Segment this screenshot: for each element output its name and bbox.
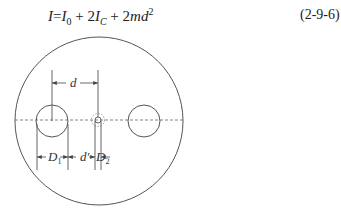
main-disk	[15, 37, 183, 205]
right-hole	[128, 105, 160, 137]
d-label: d	[70, 75, 77, 90]
d1-label: D1	[47, 149, 61, 166]
disk-diagram: d D1 d' D2	[0, 0, 341, 217]
d2-label: D2	[95, 149, 109, 166]
dprime-label: d'	[80, 149, 90, 164]
